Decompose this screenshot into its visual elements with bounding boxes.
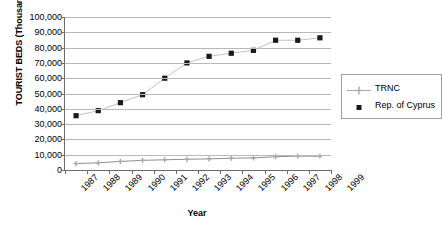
y-axis-tick-mark [61,63,65,64]
data-point-marker [251,155,256,160]
gridline [65,17,331,18]
data-point-marker [73,161,78,166]
y-axis-tick-mark [61,109,65,110]
gridline [65,32,331,33]
data-point-marker [295,38,300,43]
gridline [65,63,331,64]
data-point-marker [273,38,278,43]
data-point-marker [206,54,211,59]
x-axis-tick-label: 1993 [212,172,233,193]
y-axis-tick-labels: 100,00090,00080,00070,00060,00050,00040,… [10,12,62,170]
gridline [65,48,331,49]
x-axis-tick-label: 1999 [345,172,366,193]
y-axis-tick-label: 30,000 [10,120,62,129]
y-axis-tick-mark [61,94,65,95]
data-point-marker [118,100,123,105]
legend-key-cross-icon [347,82,371,93]
data-point-marker [118,159,123,164]
x-axis-tick-label: 1996 [278,172,299,193]
y-axis-tick-mark [61,124,65,125]
data-point-marker [96,160,101,165]
x-axis-tick-label: 1988 [101,172,122,193]
x-axis-tick-labels: 1987198819891990199119921993199419951996… [64,172,330,206]
gridline [65,78,331,79]
y-axis-tick-mark [61,32,65,33]
x-axis-tick-label: 1991 [168,172,189,193]
y-axis-tick-label: 80,000 [10,43,62,52]
x-axis-tick-label: 1995 [256,172,277,193]
series-line-rep-of-cyprus [76,38,320,116]
plot-area [64,17,331,171]
data-point-marker [73,113,78,118]
series-line-trnc [76,156,320,163]
gridline [65,124,331,125]
y-axis-tick-mark [61,78,65,79]
y-axis-tick-label: 70,000 [10,58,62,67]
y-axis-tick-label: 40,000 [10,104,62,113]
x-axis-tick-label: 1987 [79,172,100,193]
data-point-marker [229,51,234,56]
data-point-marker [162,157,167,162]
y-axis-tick-label: 90,000 [10,28,62,37]
y-axis-tick-label: 50,000 [10,89,62,98]
legend-label-rep-of-cyprus: Rep. of Cyprus [375,100,435,110]
x-axis-tick-label: 1997 [301,172,322,193]
x-axis-tick-mark [331,170,332,174]
y-axis-tick-mark [61,139,65,140]
gridline [65,155,331,156]
y-axis-tick-label: 10,000 [10,150,62,159]
x-axis-tick-label: 1998 [323,172,344,193]
legend-item-rep-of-cyprus[interactable]: Rep. of Cyprus [347,96,435,113]
x-axis-tick-label: 1994 [234,172,255,193]
legend-key-square-icon [347,99,371,110]
gridline [65,94,331,95]
x-axis-tick-label: 1989 [123,172,144,193]
data-point-marker [317,35,322,40]
data-point-marker [229,156,234,161]
x-axis-title: Year [64,208,330,218]
gridline [65,139,331,140]
data-point-marker [140,158,145,163]
data-point-marker [184,157,189,162]
gridline [65,109,331,110]
y-axis-tick-label: 0 [10,166,62,175]
chart-legend: TRNC Rep. of Cyprus [341,74,442,119]
y-axis-tick-label: 20,000 [10,135,62,144]
y-axis-tick-label: 100,000 [10,13,62,22]
x-axis-tick-label: 1992 [190,172,211,193]
y-axis-tick-mark [61,48,65,49]
legend-item-trnc[interactable]: TRNC [347,79,435,96]
y-axis-tick-mark [61,155,65,156]
x-axis-tick-label: 1990 [145,172,166,193]
y-axis-tick-label: 60,000 [10,74,62,83]
legend-label-trnc: TRNC [375,83,400,93]
data-point-marker [206,156,211,161]
y-axis-tick-mark [61,17,65,18]
